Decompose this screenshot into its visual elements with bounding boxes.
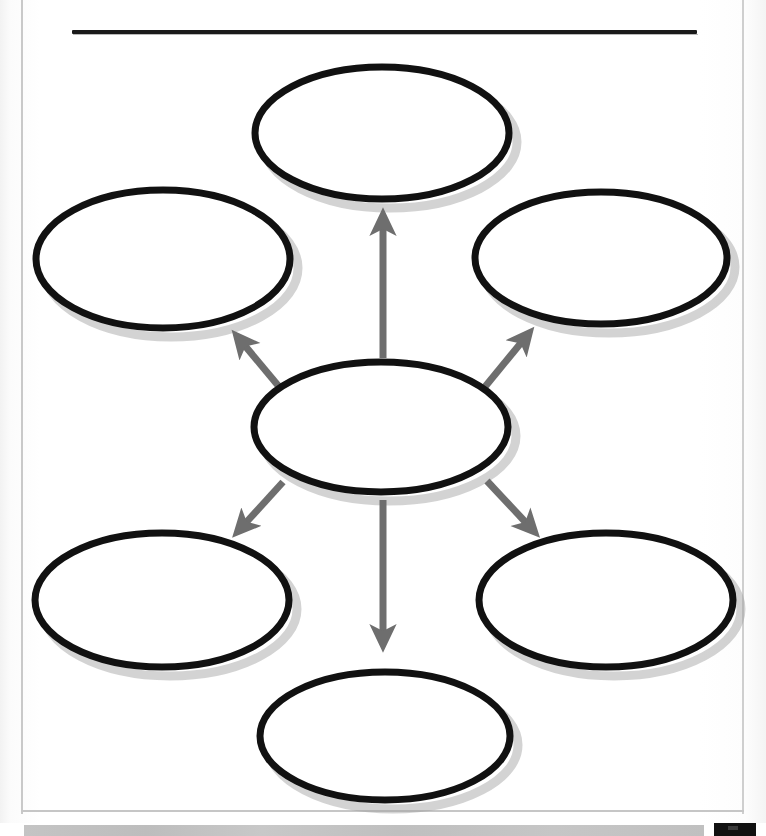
arrow-center-to-lower-right[interactable] (487, 481, 530, 527)
arrow-center-to-lower-left[interactable] (242, 482, 283, 527)
top-detail-oval-text[interactable] (268, 80, 496, 186)
worksheet-page (0, 0, 766, 836)
center-topic-oval-text[interactable] (268, 375, 494, 479)
scanner-bar-marker-block (714, 823, 756, 836)
lower-right-detail-oval-text[interactable] (493, 546, 719, 654)
lower-left-detail-oval-text[interactable] (49, 546, 275, 654)
upper-right-detail-oval-text[interactable] (488, 205, 714, 311)
scanner-bar-strip (24, 825, 704, 836)
bottom-detail-oval-text[interactable] (273, 684, 497, 788)
upper-left-detail-oval-text[interactable] (50, 203, 276, 315)
